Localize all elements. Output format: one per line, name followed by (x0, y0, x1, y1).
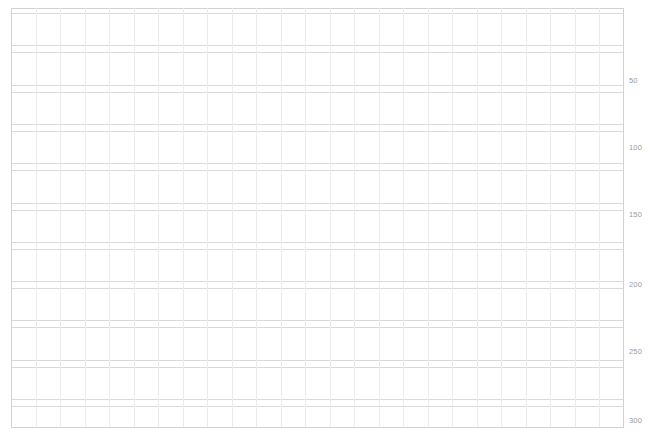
y-axis-tick-label: 250 (629, 348, 642, 356)
grid-lines (11, 8, 624, 428)
y-axis-tick-label: 50 (629, 77, 638, 85)
y-axis-tick-label: 200 (629, 281, 642, 289)
screenshot-root: 50100150200250300 (0, 0, 651, 441)
y-axis-tick-label: 100 (629, 144, 642, 152)
y-axis-tick-label: 300 (629, 417, 642, 425)
grid-plot-area (11, 8, 624, 428)
y-axis-tick-label: 150 (629, 211, 642, 219)
